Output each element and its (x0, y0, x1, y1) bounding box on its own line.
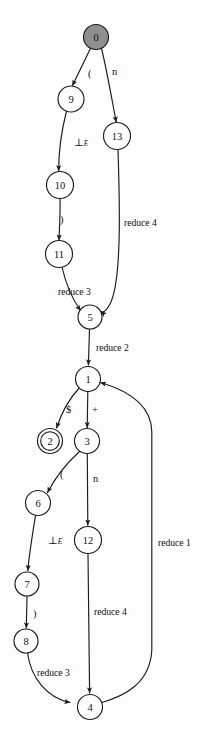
edge-5-1 (88, 329, 89, 365)
edge-label-7-8: ) (33, 608, 36, 620)
node-3[interactable]: 3 (75, 429, 100, 454)
edge-label-3-6: ( (60, 469, 64, 481)
node-2-label: 2 (47, 436, 52, 447)
edge-12-4 (88, 554, 90, 694)
node-5-label: 5 (87, 312, 92, 323)
node-12[interactable]: 12 (75, 527, 102, 554)
node-3-label: 3 (84, 436, 89, 447)
edge-1-3 (87, 392, 88, 428)
bottom-symbol: ⊥ (48, 535, 58, 546)
node-5[interactable]: 5 (78, 305, 102, 329)
node-8[interactable]: 8 (14, 629, 38, 653)
edge-label-3-12: n (93, 473, 99, 484)
node-13-label: 13 (112, 131, 123, 142)
node-6[interactable]: 6 (26, 491, 51, 516)
edge-label-9-10: ⊥E (74, 137, 89, 149)
edge-label-11-5: reduce 3 (58, 286, 91, 297)
node-4[interactable]: 4 (78, 695, 103, 720)
node-10-label: 10 (55, 180, 66, 191)
node-7[interactable]: 7 (15, 572, 39, 596)
diagram-canvas: ( n ⊥E ) reduce 3 reduce 4 reduce 2 $ + … (0, 0, 207, 749)
edge-labels-layer: ( n ⊥E ) reduce 3 reduce 4 reduce 2 $ + … (33, 66, 191, 678)
edge-8-4 (28, 653, 71, 703)
node-6-label: 6 (35, 498, 40, 509)
edge-label-10-11: ) (60, 214, 63, 226)
edge-label-8-4: reduce 3 (37, 667, 70, 678)
node-10[interactable]: 10 (47, 172, 74, 199)
edge-label-4-1: reduce 1 (158, 537, 191, 548)
node-1-label: 1 (85, 374, 90, 385)
node-1[interactable]: 1 (76, 367, 101, 392)
edge-3-6 (48, 452, 80, 493)
node-7-label: 7 (24, 579, 29, 590)
bottom-symbol: ⊥ (74, 137, 84, 148)
edge-label-1-3: + (92, 404, 98, 415)
edge-9-10 (59, 111, 67, 171)
edge-label-0-9: ( (88, 68, 92, 80)
node-11-label: 11 (54, 249, 64, 260)
node-0-label: 0 (93, 32, 98, 43)
edge-label-6-7: ⊥E (48, 535, 63, 547)
node-13[interactable]: 13 (104, 123, 131, 150)
bottom-symbol-subscript: E (83, 140, 89, 148)
edge-label-0-13: n (112, 66, 118, 77)
bottom-symbol-subscript: E (57, 538, 63, 546)
edge-7-8 (26, 596, 27, 628)
edge-13-5 (101, 150, 120, 313)
node-12-label: 12 (83, 535, 94, 546)
node-9-label: 9 (68, 94, 73, 105)
edge-label-5-1: reduce 2 (96, 342, 129, 353)
node-11[interactable]: 11 (46, 241, 73, 268)
edge-0-13 (102, 49, 117, 123)
edge-4-1 (101, 383, 152, 703)
edge-label-12-4: reduce 4 (94, 606, 127, 617)
edge-label-13-5: reduce 4 (124, 217, 157, 228)
node-4-label: 4 (87, 702, 93, 713)
node-0[interactable]: 0 (84, 25, 109, 50)
node-8-label: 8 (23, 636, 28, 647)
edge-3-12 (87, 454, 88, 526)
edge-6-7 (28, 516, 36, 571)
node-9[interactable]: 9 (58, 86, 84, 112)
edge-label-1-2: $ (66, 404, 71, 415)
lr-automaton-figure: ( n ⊥E ) reduce 3 reduce 4 reduce 2 $ + … (0, 0, 207, 749)
node-2[interactable]: 2 (38, 429, 63, 454)
